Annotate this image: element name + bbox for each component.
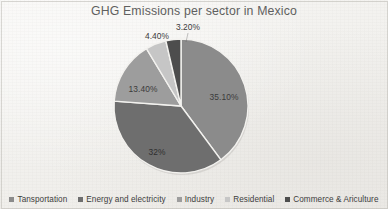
legend-item-label: Residential: [233, 195, 274, 204]
pie-slice-label: 32%: [148, 147, 165, 157]
pie-slice-label: 4.40%: [145, 31, 169, 41]
legend-swatch-icon: [285, 197, 290, 202]
pie-slice-label: 13.40%: [128, 84, 157, 94]
legend-swatch-icon: [225, 197, 230, 202]
chart-legend: TansportationEnergy and electricityIndus…: [0, 195, 388, 204]
legend-item[interactable]: Tansportation: [9, 195, 67, 204]
pie-slice-label: 3.20%: [176, 22, 200, 32]
legend-item[interactable]: Industry: [177, 195, 215, 204]
legend-item-label: Commerce & Ariculture: [293, 195, 378, 204]
legend-item[interactable]: Energy and electricity: [78, 195, 165, 204]
legend-item[interactable]: Residential: [225, 195, 274, 204]
pie-chart-card: GHG Emissions per sector in Mexico 35.10…: [0, 0, 388, 209]
legend-item[interactable]: Commerce & Ariculture: [285, 195, 378, 204]
legend-swatch-icon: [9, 197, 14, 202]
legend-swatch-icon: [177, 197, 182, 202]
pie-plot-area: 35.10%32%13.40%4.40%3.20%: [0, 0, 388, 209]
legend-item-label: Energy and electricity: [86, 195, 165, 204]
legend-swatch-icon: [78, 197, 83, 202]
legend-item-label: Industry: [185, 195, 215, 204]
pie-slice-label: 35.10%: [209, 92, 238, 102]
legend-item-label: Tansportation: [17, 195, 67, 204]
